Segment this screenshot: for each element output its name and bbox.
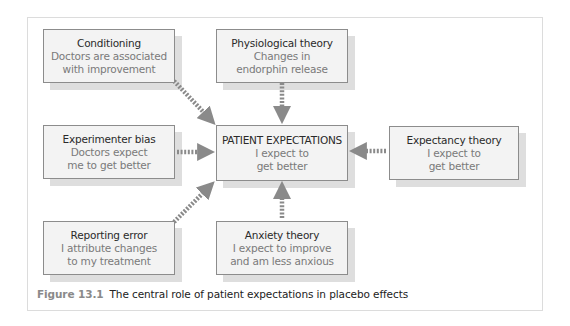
node-center-patient-expectations: PATIENT EXPECTATIONS I expect to get bet… bbox=[216, 125, 348, 181]
node-title: Physiological theory bbox=[231, 37, 333, 50]
node-line: get better bbox=[429, 160, 480, 173]
node-line: Changes in bbox=[254, 50, 311, 63]
node-title: Reporting error bbox=[71, 229, 148, 242]
node-line: endorphin release bbox=[236, 63, 328, 76]
node-title: Anxiety theory bbox=[245, 229, 319, 242]
node-line: to my treatment bbox=[67, 255, 150, 268]
figure-caption: Figure 13.1The central role of patient e… bbox=[37, 288, 408, 300]
node-line: Doctors are associated bbox=[51, 50, 167, 63]
node-expectancy: Expectancy theory I expect to get better bbox=[389, 126, 519, 180]
figure-label: Figure 13.1 bbox=[37, 288, 104, 300]
node-line: I attribute changes bbox=[61, 242, 157, 255]
node-line: with improvement bbox=[63, 63, 156, 76]
figure-caption-text: The central role of patient expectations… bbox=[110, 288, 408, 300]
node-anxiety: Anxiety theory I expect to improve and a… bbox=[216, 221, 348, 275]
node-reporting: Reporting error I attribute changes to m… bbox=[43, 221, 175, 275]
node-conditioning: Conditioning Doctors are associated with… bbox=[43, 29, 175, 83]
node-line: Doctors expect bbox=[71, 146, 148, 159]
node-line: me to get better bbox=[67, 159, 150, 172]
arrow-conditioning bbox=[174, 81, 210, 119]
arrow-reporting bbox=[174, 187, 209, 222]
node-line: I expect to bbox=[427, 147, 481, 160]
center-line: get better bbox=[257, 160, 308, 173]
node-physiological: Physiological theory Changes in endorphi… bbox=[216, 29, 348, 83]
center-title: PATIENT EXPECTATIONS bbox=[222, 134, 342, 147]
node-line: and am less anxious bbox=[230, 255, 334, 268]
node-line: I expect to improve bbox=[233, 242, 331, 255]
center-line: I expect to bbox=[255, 147, 309, 160]
node-title: Expectancy theory bbox=[406, 134, 501, 147]
node-title: Experimenter bias bbox=[63, 133, 156, 146]
node-experimenter: Experimenter bias Doctors expect me to g… bbox=[43, 125, 175, 179]
node-title: Conditioning bbox=[77, 37, 141, 50]
